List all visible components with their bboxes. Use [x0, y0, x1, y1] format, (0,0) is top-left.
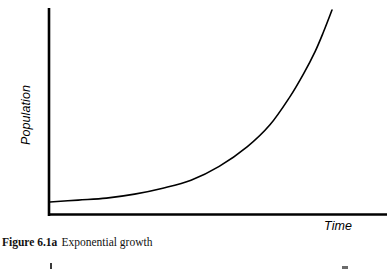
figure-exponential-growth: Population Time Figure 6.1aExponential g…: [0, 0, 387, 271]
y-axis-label: Population: [19, 93, 33, 145]
figure-caption: Figure 6.1aExponential growth: [2, 235, 152, 249]
exponential-curve: [50, 10, 332, 202]
figure-caption-text: Exponential growth: [61, 236, 152, 248]
plot-area: Population Time: [0, 0, 387, 236]
x-axis-label: Time: [324, 219, 352, 233]
page-edge-artifact-right: [342, 266, 348, 269]
exponential-growth-chart: [0, 0, 387, 236]
page-edge-artifact-left: [50, 263, 52, 269]
figure-caption-label: Figure 6.1a: [2, 236, 57, 248]
